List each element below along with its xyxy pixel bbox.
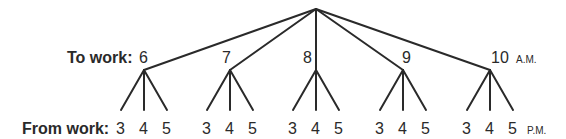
from-work-time: 4: [485, 121, 494, 137]
from-work-label: From work:: [22, 121, 109, 137]
from-work-time: 3: [375, 121, 384, 137]
to-work-label: To work:: [67, 50, 132, 66]
to-work-time-8: 8: [303, 50, 312, 66]
from-work-time: 5: [508, 121, 517, 137]
to-work-time-9: 9: [402, 50, 411, 66]
am-suffix: A.M.: [516, 55, 537, 65]
from-work-time: 4: [311, 121, 320, 137]
leaf-branches: [121, 70, 513, 110]
from-work-time: 4: [398, 121, 407, 137]
from-work-time: 3: [462, 121, 471, 137]
to-work-time-7: 7: [222, 50, 231, 66]
from-work-time: 4: [139, 121, 148, 137]
from-work-time: 4: [225, 121, 234, 137]
tree-diagram: [0, 0, 566, 139]
to-work-time-6: 6: [139, 50, 148, 66]
to-work-time-10: 10: [491, 50, 509, 66]
from-work-time: 3: [116, 121, 125, 137]
pm-suffix: P.M.: [527, 126, 546, 136]
branch-to-9: [316, 9, 403, 70]
from-work-time: 5: [334, 121, 343, 137]
from-work-time: 5: [421, 121, 430, 137]
from-work-time: 5: [162, 121, 171, 137]
root-branches: [144, 9, 490, 70]
from-work-time: 5: [248, 121, 257, 137]
from-work-time: 3: [202, 121, 211, 137]
from-work-time: 3: [288, 121, 297, 137]
